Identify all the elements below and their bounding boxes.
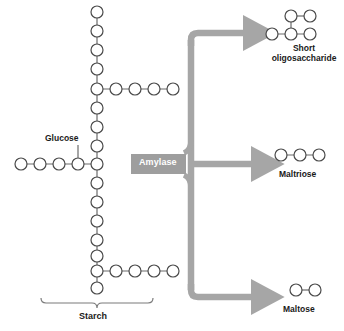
short-oligosaccharide-label-line1: Short: [293, 43, 315, 53]
short-oligosaccharide-label-line2: oligosaccharide: [272, 53, 337, 63]
glucose-unit: [91, 196, 103, 208]
glucose-unit: [91, 282, 103, 294]
glucose-unit: [34, 158, 46, 170]
maltriose-label: Maltriose: [279, 170, 316, 180]
glucose-unit: [91, 140, 103, 152]
starch-label: Starch: [79, 311, 107, 321]
arrow-fork-upper-fillet: [184, 140, 191, 153]
glucose-unit: [91, 25, 103, 37]
product-short-oligosaccharide-structure: [266, 10, 316, 40]
arrow-fork-lower-fillet: [184, 175, 191, 188]
glucose-unit: [285, 10, 297, 22]
glucose-unit: [148, 83, 160, 95]
glucose-unit: [91, 121, 103, 133]
product-maltose-structure: [290, 284, 321, 296]
glucose-unit: [15, 158, 27, 170]
glucose-unit: [129, 83, 141, 95]
glucose-unit: [129, 265, 141, 277]
glucose-unit: [275, 149, 287, 161]
glucose-unit: [110, 83, 122, 95]
starch-backbone-units: [91, 6, 103, 294]
glucose-unit: [313, 149, 325, 161]
glucose-unit: [91, 250, 103, 262]
glucose-unit: [91, 6, 103, 18]
product-maltriose-structure: [275, 149, 325, 161]
glucose-unit: [294, 149, 306, 161]
maltose-label: Maltose: [283, 305, 315, 315]
glucose-unit: [91, 234, 103, 246]
glucose-unit: [91, 44, 103, 56]
glucose-unit-branchpoint: [91, 158, 103, 170]
glucose-unit: [290, 284, 302, 296]
glucose-unit: [304, 10, 316, 22]
glucose-unit: [91, 177, 103, 189]
glucose-unit: [309, 284, 321, 296]
arrow-to-maltose: [191, 284, 258, 297]
glucose-unit: [148, 265, 160, 277]
starch-bracket: [41, 298, 153, 308]
glucose-label: Glucose: [45, 134, 79, 144]
glucose-unit: [110, 265, 122, 277]
glucose-unit: [53, 158, 65, 170]
diagram-figure: Glucose Amylase Starch Short oligosaccha…: [0, 0, 344, 331]
glucose-unit: [167, 83, 179, 95]
glucose-unit: [91, 63, 103, 75]
glucose-unit: [304, 28, 316, 40]
glucose-unit-branchpoint: [91, 83, 103, 95]
glucose-unit-branchpoint: [91, 265, 103, 277]
amylase-label: Amylase: [139, 157, 177, 167]
reaction-arrows-group: [184, 33, 258, 297]
glucose-unit: [167, 265, 179, 277]
glucose-unit: [285, 28, 297, 40]
glucose-unit: [266, 28, 278, 40]
glucose-unit: [91, 102, 103, 114]
glucose-unit: [91, 215, 103, 227]
short-oligosaccharide-label: Short oligosaccharide: [266, 44, 342, 63]
glucose-unit-labeled: [72, 158, 84, 170]
arrow-to-short-oligosaccharide: [191, 33, 250, 46]
